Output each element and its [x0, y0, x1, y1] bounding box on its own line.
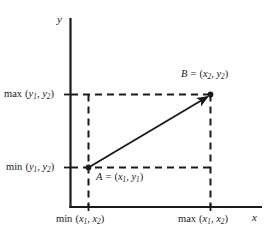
- y-tick-min-sub2: 2: [47, 166, 51, 174]
- point-b-close: ): [225, 68, 229, 79]
- x-tick-label-min: min (x1, x2): [56, 214, 104, 225]
- point-b-var1: x: [203, 68, 208, 79]
- x-tick-max-close: ): [224, 213, 228, 224]
- point-b-sub2: 2: [221, 73, 225, 81]
- point-label-a: A = (x1, y1): [96, 172, 143, 183]
- x-tick-min-var1: x: [79, 213, 84, 224]
- x-tick-max-sub2: 2: [221, 218, 225, 226]
- point-label-b: B = (x2, y2): [181, 69, 228, 80]
- x-axis-label: x: [252, 212, 257, 223]
- point-marker-b: [208, 92, 214, 98]
- y-tick-label-max: max (y1, y2): [4, 89, 54, 100]
- y-tick-min-prefix: min: [6, 161, 22, 172]
- x-tick-max-prefix: max: [178, 213, 196, 224]
- y-tick-min-var1: y: [29, 161, 34, 172]
- segment-a-to-b: [89, 97, 208, 168]
- x-tick-min-sub1: 1: [84, 218, 88, 226]
- x-tick-max-sub1: 1: [207, 218, 211, 226]
- y-tick-min-close: ): [51, 161, 55, 172]
- point-marker-a: [86, 165, 92, 171]
- y-tick-max-prefix: max: [4, 88, 22, 99]
- y-tick-min-sub1: 1: [34, 166, 38, 174]
- y-tick-label-min: min (y1, y2): [6, 162, 54, 173]
- y-tick-max-sub1: 1: [33, 93, 37, 101]
- y-axis-label: y: [57, 14, 62, 25]
- y-tick-max-close: ): [50, 88, 54, 99]
- point-a-var1: x: [118, 171, 123, 182]
- point-b-sub1: 2: [208, 73, 212, 81]
- diagram-canvas: [0, 0, 275, 243]
- point-a-sub1: 1: [123, 176, 127, 184]
- x-tick-label-max: max (x1, x2): [178, 214, 228, 225]
- x-tick-min-close: ): [101, 213, 105, 224]
- coordinate-diagram-figure: y x max (y1, y2) min (y1, y2) min (x1, x…: [0, 0, 275, 243]
- x-tick-min-prefix: min: [56, 213, 72, 224]
- point-a-sub2: 1: [136, 176, 140, 184]
- point-a-close: ): [140, 171, 144, 182]
- y-tick-max-sub2: 2: [47, 93, 51, 101]
- x-tick-min-sub2: 2: [97, 218, 101, 226]
